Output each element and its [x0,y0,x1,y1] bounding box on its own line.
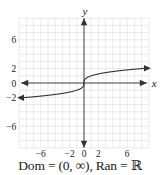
curve-right-arrow-icon [144,65,151,71]
x-axis-right-arrow-icon [140,80,147,86]
x-tick-label: −2 [65,149,75,157]
y-tick-label: 0 [11,79,16,89]
y-tick-label: −6 [6,122,16,132]
domain-range-caption: Dom = (0, ∞), Ran = ℝ [0,157,160,174]
x-axis-left-arrow-icon [21,80,28,86]
y-tick-label: 6 [11,35,16,45]
x-tick-label: 6 [125,149,130,157]
y-axis-down-arrow-icon [81,141,87,148]
x-tick-label: 2 [96,149,101,157]
y-tick-label: 2 [11,64,16,74]
curve-left-arrow-icon [17,95,24,101]
y-axis-label: y [82,5,88,17]
tick-labels: −6−2026620−2−6 [6,35,130,157]
x-tick-label: −6 [36,149,46,157]
x-tick-label: 0 [82,149,87,157]
y-axis-up-arrow-icon [81,18,87,25]
graph-plot: xy −6−2026620−2−6 [0,0,160,157]
y-tick-label: −2 [6,93,16,103]
x-axis-label: x [151,77,157,89]
